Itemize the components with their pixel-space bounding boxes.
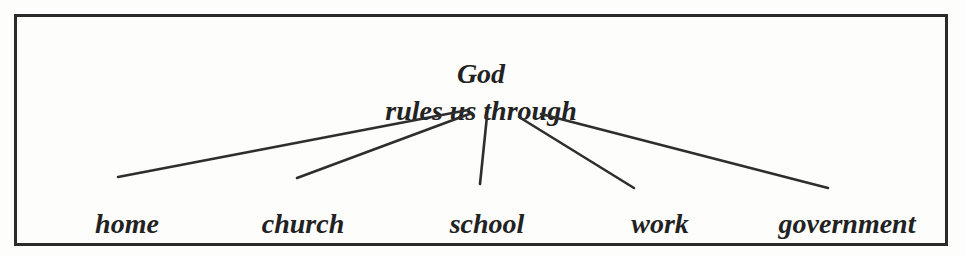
branch-label-government: government [779, 210, 916, 238]
root-label-god: God [17, 60, 945, 88]
branch-label-work: work [631, 210, 689, 238]
root-label-rules-us-through: rules us through [17, 97, 945, 125]
diagram-frame: God rules us through home church school … [14, 14, 948, 246]
branch-label-school: school [450, 210, 525, 238]
branch-label-home: home [95, 210, 159, 238]
branch-label-church: church [262, 210, 344, 238]
